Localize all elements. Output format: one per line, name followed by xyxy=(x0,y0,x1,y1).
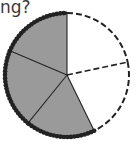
fraction-circle-diagram xyxy=(0,0,137,143)
bead xyxy=(61,11,66,16)
